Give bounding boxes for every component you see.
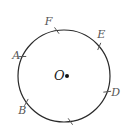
diagram-canvas: FEADB O (0, 0, 127, 126)
point-label-d: D (110, 86, 120, 99)
center-point (65, 74, 69, 78)
point-label-b: B (17, 104, 26, 117)
arc-mark-e (98, 43, 101, 50)
point-label-a: A (11, 49, 20, 62)
point-label-f: F (44, 15, 53, 28)
arc-mark-d (103, 91, 111, 92)
center-label: O (54, 68, 65, 83)
point-label-e: E (96, 28, 105, 41)
circle-diagram: FEADB O (0, 0, 127, 126)
